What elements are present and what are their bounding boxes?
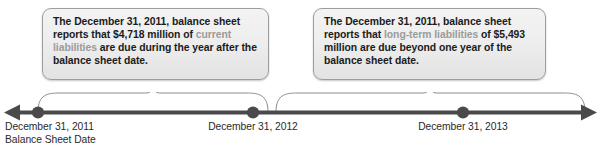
axis-tick-dot-2011 (32, 106, 44, 118)
timeline-axis (0, 92, 602, 122)
axis-arrow-right-icon (581, 105, 597, 121)
axis-label-2013: December 31, 2013 (418, 121, 508, 134)
axis-label-2011-date: December 31, 2011 (5, 121, 94, 132)
axis-label-2012-date: December 31, 2012 (208, 121, 298, 132)
callout-right-highlight-term: long-term liabilities (384, 29, 478, 40)
axis-label-2011-subtitle: Balance Sheet Date (5, 134, 96, 147)
axis-label-2013-date: December 31, 2013 (418, 121, 508, 132)
axis-label-2012: December 31, 2012 (208, 121, 298, 134)
callout-current-liabilities: The December 31, 2011, balance sheet rep… (42, 8, 269, 80)
callout-long-term-liabilities: The December 31, 2011, balance sheet rep… (313, 8, 546, 80)
axis-arrow-left-icon (4, 105, 20, 121)
axis-tick-dot-2013 (457, 106, 469, 118)
callout-current-liabilities-text: The December 31, 2011, balance sheet rep… (53, 15, 259, 67)
callout-long-term-liabilities-text: The December 31, 2011, balance sheet rep… (324, 15, 536, 67)
axis-label-2011: December 31, 2011 Balance Sheet Date (5, 121, 96, 146)
figure-canvas: The December 31, 2011, balance sheet rep… (0, 0, 602, 149)
axis-tick-dot-2012 (247, 106, 259, 118)
